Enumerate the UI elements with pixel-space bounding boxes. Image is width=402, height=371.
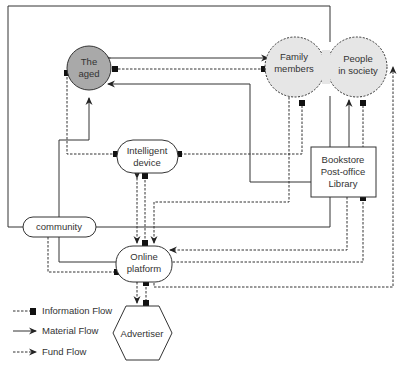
svg-text:device: device bbox=[133, 157, 160, 168]
flow-diagram: The aged Family members People in societ… bbox=[0, 0, 402, 371]
svg-text:community: community bbox=[36, 221, 82, 232]
svg-text:The: The bbox=[81, 56, 97, 67]
node-family-society: Family members People in society bbox=[265, 37, 387, 97]
edge-aged-family-info bbox=[112, 66, 267, 72]
edge-family-platform-fund bbox=[154, 97, 289, 243]
legend-fund: Fund Flow bbox=[13, 346, 86, 357]
legend-information: Information Flow bbox=[13, 305, 112, 316]
node-advertiser: Advertiser bbox=[113, 306, 172, 360]
edge-device-family-info bbox=[176, 100, 305, 157]
svg-text:in society: in society bbox=[338, 65, 378, 76]
edge-community-outer-loop bbox=[8, 6, 330, 227]
svg-text:Material Flow: Material Flow bbox=[42, 325, 99, 336]
svg-text:platform: platform bbox=[127, 263, 161, 274]
svg-text:Intelligent: Intelligent bbox=[127, 145, 168, 156]
information-square-icon bbox=[30, 308, 36, 315]
svg-text:Advertiser: Advertiser bbox=[121, 328, 164, 339]
people-society-label: People bbox=[343, 53, 373, 64]
edge-bookstore-platform-info bbox=[172, 195, 366, 262]
svg-text:Library: Library bbox=[328, 178, 357, 189]
edge-platform-advertiser-info bbox=[143, 280, 149, 306]
edge-community-platform-material bbox=[59, 237, 118, 262]
svg-text:Online: Online bbox=[130, 251, 157, 262]
svg-text:Fund Flow: Fund Flow bbox=[42, 346, 86, 357]
edge-device-platform-info bbox=[142, 173, 148, 246]
edge-bookstore-society-info bbox=[360, 100, 366, 148]
svg-text:Information Flow: Information Flow bbox=[42, 305, 112, 316]
svg-text:Bookstore: Bookstore bbox=[322, 154, 365, 165]
node-community: community bbox=[23, 217, 96, 237]
node-the-aged: The aged bbox=[67, 46, 111, 90]
legend: Information Flow Material Flow Fund Flow bbox=[13, 305, 112, 357]
family-members-label: Family bbox=[280, 51, 308, 62]
svg-text:Post-office: Post-office bbox=[321, 166, 366, 177]
edge-community-aged-material bbox=[59, 98, 89, 217]
svg-text:members: members bbox=[274, 63, 314, 74]
node-online-platform: Online platform bbox=[116, 246, 172, 282]
node-intelligent-device: Intelligent device bbox=[117, 140, 178, 173]
node-bookstore: Bookstore Post-office Library bbox=[311, 147, 376, 197]
legend-material: Material Flow bbox=[13, 325, 99, 336]
svg-text:aged: aged bbox=[78, 68, 99, 79]
edge-bookstore-platform-fund bbox=[170, 197, 347, 250]
